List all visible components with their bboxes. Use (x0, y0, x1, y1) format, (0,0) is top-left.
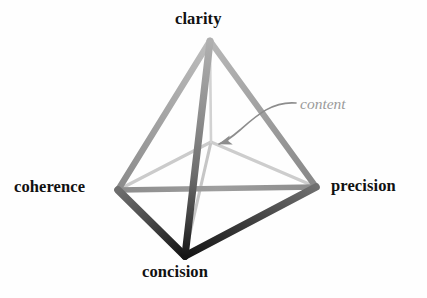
edge-coherence-precision (118, 187, 316, 190)
vertex-label-precision: precision (331, 176, 396, 196)
vertex-label-clarity: clarity (175, 9, 222, 29)
tetrahedron-svg (0, 0, 427, 298)
vertex-label-coherence: coherence (14, 177, 85, 197)
diagram-canvas: clarity coherence precision concision co… (0, 0, 427, 298)
edge-coherence-concision (118, 190, 185, 256)
edge-concision-precision (185, 187, 316, 256)
outer-edges (118, 41, 316, 256)
vertex-label-concision: concision (142, 262, 208, 282)
annotation-label-content: content (300, 95, 346, 113)
